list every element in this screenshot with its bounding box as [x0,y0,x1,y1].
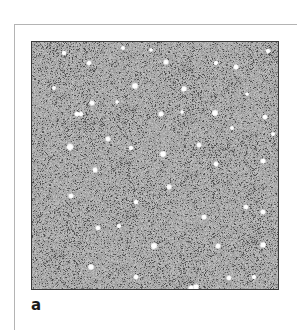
speckle-micrograph [32,42,278,289]
figure-frame-left-rule [14,24,15,330]
panel-label: a [31,296,41,314]
figure-frame-top-rule [14,24,297,25]
figure-panel-image [31,41,279,290]
